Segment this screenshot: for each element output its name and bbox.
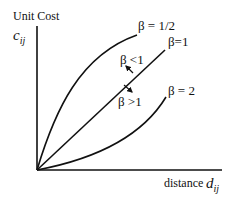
curve-beta-two: [37, 97, 166, 170]
label-beta-two: β = 2: [168, 83, 195, 98]
x-axis-symbol: dij: [206, 175, 219, 194]
arrow-up-left-icon: [126, 66, 133, 73]
x-axis-label: distance: [164, 176, 203, 190]
arrow-down-right-icon: [124, 85, 132, 92]
curve-beta-one: [37, 50, 165, 170]
label-beta-gt-1: β >1: [118, 94, 142, 109]
label-beta-lt-1: β <1: [120, 52, 144, 67]
cost-distance-diagram: Unit Cost cij distance dij β = 1/2 β=1 β…: [0, 0, 233, 199]
y-axis-symbol: cij: [13, 27, 25, 46]
label-beta-one: β=1: [168, 34, 188, 49]
label-beta-half: β = 1/2: [138, 18, 175, 33]
y-axis-label: Unit Cost: [13, 9, 60, 23]
